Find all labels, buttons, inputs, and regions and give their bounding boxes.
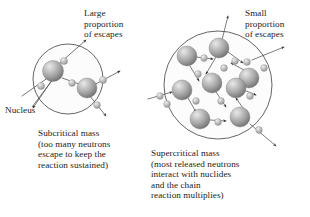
subcritical-boundary-circle: [33, 44, 103, 114]
nucleus-sphere: [226, 78, 246, 98]
neutron-sphere: [244, 59, 251, 66]
label-nucleus: Nucleus: [5, 105, 35, 116]
neutron-sphere: [256, 127, 263, 134]
nucleus-sphere: [190, 109, 210, 129]
neutron-sphere: [94, 102, 101, 109]
nucleus-sphere: [202, 73, 222, 93]
label-small-proportion-of-escapes: Small proportion of escapes: [245, 8, 284, 40]
caption-supercritical-mass: Supercritical mass (most released neutro…: [151, 148, 239, 201]
neutron-sphere: [60, 57, 67, 64]
neutron-sphere: [232, 58, 239, 65]
nucleus-sphere: [209, 38, 229, 58]
neutron-sphere: [157, 93, 164, 100]
caption-subcritical-mass: Subcritical mass (too many neutrons esca…: [38, 128, 110, 170]
neutron-sphere: [261, 65, 268, 72]
nucleus-sphere: [43, 61, 64, 82]
label-large-proportion-of-escapes: Large proportion of escapes: [84, 8, 123, 40]
neutron-sphere: [99, 76, 106, 83]
neutron-sphere: [164, 101, 171, 108]
nucleus-sphere: [230, 107, 250, 127]
neutron-path-escape: [250, 124, 276, 146]
neutron-sphere: [218, 98, 225, 105]
neutron-sphere: [69, 80, 76, 87]
neutron-sphere: [37, 82, 44, 89]
nucleus-sphere: [177, 46, 197, 66]
nucleus-sphere: [172, 80, 192, 100]
neutron-sphere: [247, 93, 254, 100]
neutron-sphere: [193, 98, 200, 105]
subcritical-diagram: [22, 40, 120, 116]
fission-chain-reaction-figure: Large proportion of escapes Small propor…: [0, 0, 310, 217]
nucleus-sphere: [77, 78, 97, 98]
neutron-sphere: [195, 71, 202, 78]
neutron-sphere: [221, 65, 228, 72]
neutron-sphere: [215, 119, 222, 126]
neutron-sphere: [201, 55, 208, 62]
